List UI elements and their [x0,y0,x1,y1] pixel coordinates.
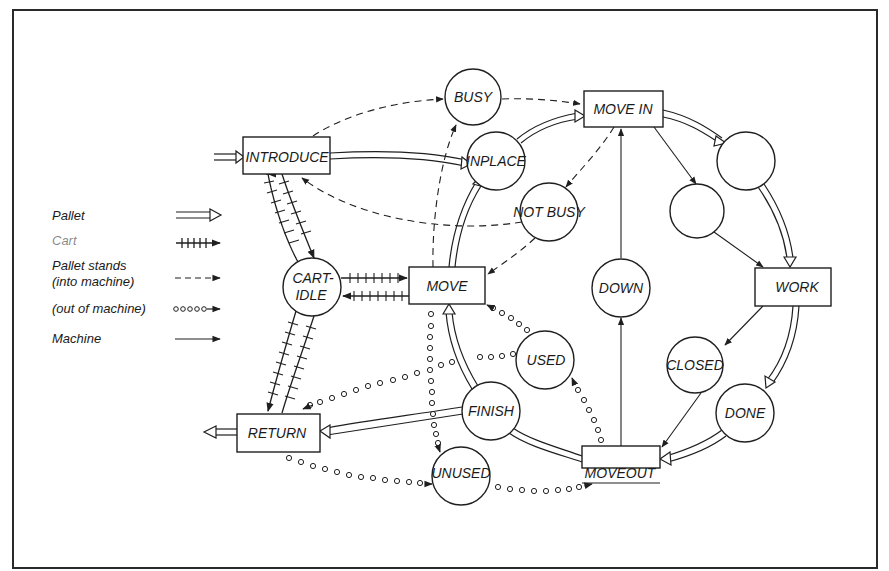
place-unlabeled-1[interactable] [717,132,775,190]
place-closed-label: CLOSED [666,357,724,373]
legend-label-into-machine: (into machine) [52,274,134,289]
place-cart-idle[interactable]: CART- IDLE [283,258,341,316]
place-inplace-label: INPLACE [466,153,527,169]
place-used[interactable]: USED [516,331,574,389]
transition-introduce-label: INTRODUCE [245,149,329,165]
transition-moveout-label: MOVEOUT [585,465,657,481]
place-not-busy[interactable]: NOT BUSY [513,183,586,241]
place-busy[interactable]: BUSY [445,69,501,125]
legend-label-machine: Machine [52,331,101,346]
place-done[interactable]: DONE [716,384,774,442]
legend-label-out-of-machine: (out of machine) [52,301,146,316]
place-cart-idle-label-2: IDLE [295,287,327,303]
legend-label-cart: Cart [52,233,78,248]
transition-moveout[interactable]: MOVEOUT [582,446,660,483]
hatched-arrow-icon [176,238,220,248]
place-finish-label: FINISH [468,403,515,419]
place-not-busy-label: NOT BUSY [513,204,586,220]
transition-work-label: WORK [775,279,819,295]
transition-work[interactable]: WORK [755,268,831,306]
circles-arrow-icon [174,307,220,312]
place-unused[interactable]: UNUSED [431,447,490,505]
transition-move-in-label: MOVE IN [593,101,653,117]
legend-item-pallet-stands-in: Pallet stands (into machine) [52,258,220,289]
place-unlabeled-2[interactable] [670,184,724,238]
legend: Pallet Cart Pallet stands (into machine) [52,208,221,346]
legend-label-pallet: Pallet [52,208,86,223]
legend-item-out-of-machine: (out of machine) [52,301,220,316]
legend-label-pallet-stands: Pallet stands [52,258,127,273]
place-done-label: DONE [725,405,766,421]
legend-item-machine: Machine [52,331,220,346]
transition-return[interactable]: RETURN [237,414,320,452]
double-arrow-icon [176,209,221,221]
place-busy-label: BUSY [454,89,494,105]
place-down[interactable]: DOWN [592,259,650,317]
transition-introduce[interactable]: INTRODUCE [243,137,330,174]
transition-move-label: MOVE [426,278,468,294]
place-unused-label: UNUSED [431,465,490,481]
place-closed[interactable]: CLOSED [666,337,724,393]
places: BUSY INPLACE NOT BUSY CART- IDLE DOWN US… [283,69,775,505]
transition-move-in[interactable]: MOVE IN [584,91,663,127]
legend-item-pallet: Pallet [52,208,221,223]
transition-move[interactable]: MOVE [409,267,485,304]
transition-return-label: RETURN [248,425,307,441]
place-finish[interactable]: FINISH [462,382,520,440]
petri-net-diagram: Pallet Cart Pallet stands (into machine) [0,0,889,571]
legend-item-cart: Cart [52,233,220,248]
place-cart-idle-label-1: CART- [292,270,334,286]
place-inplace[interactable]: INPLACE [466,132,527,190]
place-down-label: DOWN [599,280,644,296]
place-used-label: USED [527,352,566,368]
